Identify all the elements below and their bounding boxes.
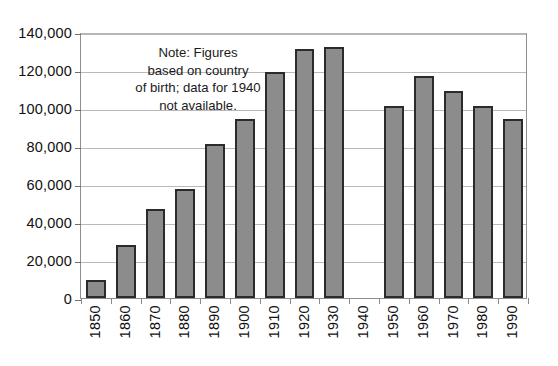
x-axis-tick-mark — [200, 298, 201, 304]
x-axis-tick-label-1890: 1890 — [206, 305, 222, 338]
x-axis-tick-label-1950: 1950 — [385, 305, 401, 338]
x-axis-tick-label-1850: 1850 — [87, 305, 103, 338]
x-axis-tick-label-1990: 1990 — [504, 305, 520, 338]
x-axis-tick-mark — [379, 298, 380, 304]
x-axis-tick-mark — [260, 298, 261, 304]
x-axis-tick-label-1940: 1940 — [355, 305, 371, 338]
y-axis-tick-label: 120,000 — [0, 63, 72, 79]
y-axis-tick-label: 0 — [0, 291, 72, 307]
bar-chart: 020,00040,00060,00080,000100,000120,0001… — [0, 0, 558, 366]
y-axis-tick-label: 80,000 — [0, 139, 72, 155]
y-axis-tick-mark — [75, 186, 81, 187]
x-axis-tick-mark — [230, 298, 231, 304]
chart-note-line: not available. — [112, 97, 284, 115]
x-axis-tick-mark — [111, 298, 112, 304]
bar-1900 — [235, 119, 255, 298]
y-axis-tick-label: 60,000 — [0, 177, 72, 193]
bar-1890 — [205, 144, 225, 298]
x-axis-tick-mark — [528, 298, 529, 304]
y-axis-tick-mark — [75, 148, 81, 149]
bar-1850 — [86, 280, 106, 298]
bar-1920 — [295, 49, 315, 298]
x-axis-tick-label-1880: 1880 — [176, 305, 192, 338]
x-axis-tick-label-1980: 1980 — [474, 305, 490, 338]
bar-1990 — [503, 119, 523, 298]
x-axis-tick-mark — [170, 298, 171, 304]
chart-note-line: based on country — [112, 62, 284, 80]
bar-1950 — [384, 106, 404, 298]
x-axis-tick-mark — [468, 298, 469, 304]
x-axis-tick-label-1960: 1960 — [415, 305, 431, 338]
y-axis-tick-label: 20,000 — [0, 253, 72, 269]
x-axis-tick-mark — [409, 298, 410, 304]
bar-1870 — [146, 209, 166, 298]
y-axis-tick-label: 140,000 — [0, 25, 72, 41]
x-axis-labels: 1850186018701880189019001910192019301940… — [80, 305, 527, 366]
bar-1960 — [414, 76, 434, 298]
bar-1970 — [444, 91, 464, 298]
y-axis-tick-label: 40,000 — [0, 215, 72, 231]
x-axis-tick-mark — [498, 298, 499, 304]
y-axis-labels: 020,00040,00060,00080,000100,000120,0001… — [0, 0, 72, 366]
y-axis-tick-mark — [75, 224, 81, 225]
x-axis-tick-mark — [141, 298, 142, 304]
bar-1860 — [116, 245, 136, 298]
chart-note-line: of birth; data for 1940 — [112, 79, 284, 97]
x-axis-tick-label-1870: 1870 — [147, 305, 163, 338]
bar-1930 — [324, 47, 344, 298]
y-axis-tick-label: 100,000 — [0, 101, 72, 117]
y-axis-tick-mark — [75, 262, 81, 263]
x-axis-tick-label-1930: 1930 — [325, 305, 341, 338]
x-axis-tick-mark — [349, 298, 350, 304]
x-axis-tick-label-1920: 1920 — [296, 305, 312, 338]
x-axis-tick-label-1910: 1910 — [266, 305, 282, 338]
x-axis-tick-label-1900: 1900 — [236, 305, 252, 338]
y-axis-tick-mark — [75, 110, 81, 111]
x-axis-tick-mark — [319, 298, 320, 304]
x-axis-tick-label-1860: 1860 — [117, 305, 133, 338]
x-axis-tick-mark — [290, 298, 291, 304]
chart-note: Note: Figuresbased on countryof birth; d… — [112, 44, 284, 114]
y-axis-tick-mark — [75, 72, 81, 73]
bar-1980 — [473, 106, 493, 298]
y-axis-tick-mark — [75, 34, 81, 35]
x-axis-tick-mark — [439, 298, 440, 304]
x-axis-tick-mark — [81, 298, 82, 304]
bar-1880 — [175, 189, 195, 298]
chart-note-line: Note: Figures — [112, 44, 284, 62]
x-axis-tick-label-1970: 1970 — [445, 305, 461, 338]
gridline — [81, 34, 526, 35]
